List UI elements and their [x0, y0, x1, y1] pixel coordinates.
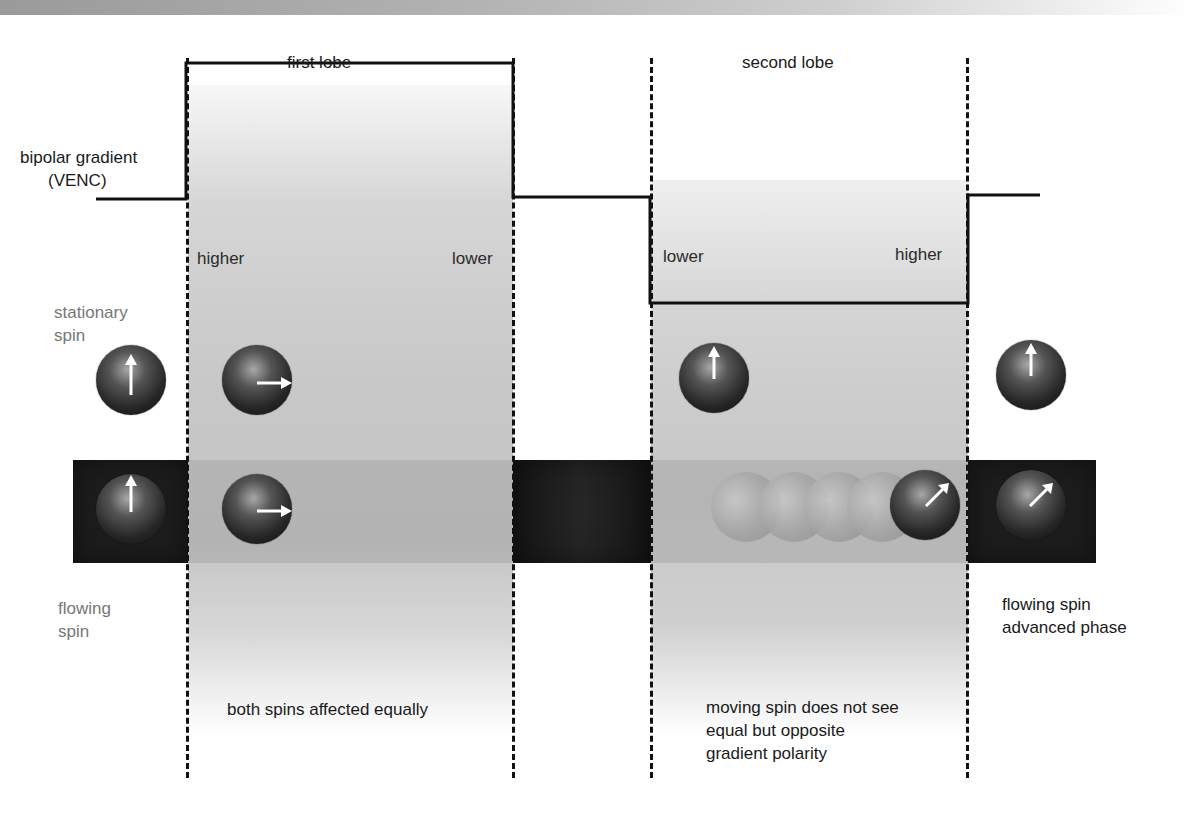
second-lobe-caption-line1: moving spin does not see [706, 697, 899, 718]
first-lobe-caption: both spins affected equally [227, 699, 428, 720]
arrow-up-icon [679, 343, 749, 413]
flowing-spin-during-second-lobe [890, 470, 960, 540]
stationary-spin-final [996, 340, 1066, 410]
arrow-up-icon [996, 340, 1066, 410]
gradient-label-line2: (VENC) [48, 170, 107, 191]
arrow-up-right-icon [890, 470, 960, 540]
first-lobe-left-label: higher [197, 248, 244, 269]
stationary-label-line2: spin [54, 325, 85, 346]
arrow-right-icon [222, 474, 292, 544]
stationary-spin-after-first-lobe [222, 345, 292, 415]
second-lobe-right-label: higher [895, 244, 942, 265]
second-lobe-left-label: lower [663, 246, 704, 267]
arrow-right-icon [222, 345, 292, 415]
second-lobe-caption-line3: gradient polarity [706, 743, 827, 764]
flowing-label-line2: spin [58, 621, 89, 642]
stationary-spin-initial [96, 345, 166, 415]
gradient-label-line1: bipolar gradient [20, 147, 137, 168]
stationary-label-line1: stationary [54, 302, 128, 323]
stationary-spin-after-second-lobe [679, 343, 749, 413]
second-lobe-title: second lobe [742, 52, 834, 73]
first-lobe-right-label: lower [452, 248, 493, 269]
arrow-up-icon [96, 474, 166, 544]
arrow-up-right-icon [996, 470, 1066, 540]
flowing-spin-final [996, 470, 1066, 540]
flowing-spin-after-first-lobe [222, 474, 292, 544]
first-lobe-title: first lobe [287, 52, 351, 73]
second-lobe-caption-line2: equal but opposite [706, 720, 845, 741]
flowing-spin-initial [96, 474, 166, 544]
arrow-up-icon [96, 345, 166, 415]
result-label-line1: flowing spin [1002, 594, 1091, 615]
result-label-line2: advanced phase [1002, 617, 1127, 638]
flowing-label-line1: flowing [58, 598, 111, 619]
